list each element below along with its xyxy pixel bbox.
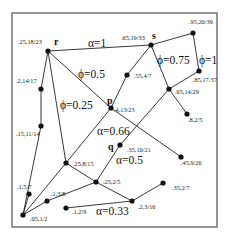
edge-weight-label: α=0.33 xyxy=(96,205,129,217)
node-value-label: .95,20/39 xyxy=(189,18,213,25)
node-n12 xyxy=(63,205,68,210)
edge-n15-n05 xyxy=(23,126,41,215)
node-n65 xyxy=(166,86,171,91)
node-name-s: s xyxy=(152,30,156,41)
edge-s-n95 xyxy=(151,33,193,45)
node-value-label: .55,4/7 xyxy=(134,72,152,79)
node-n85 xyxy=(196,68,201,73)
node-n2 xyxy=(38,86,43,91)
node-name-q: q xyxy=(108,141,114,152)
node-name-r: r xyxy=(54,36,59,47)
edge-r-n2 xyxy=(41,51,48,89)
edge-weight-label: α=0.5 xyxy=(116,154,143,166)
node-value-label: .45,9/26 xyxy=(181,159,202,166)
graph-diagram: .25,18/23.65,19/33.95,20/39.85,17/37.55,… xyxy=(0,0,228,237)
edge-n55-p xyxy=(111,75,127,108)
node-value-label: .1,5/7 xyxy=(17,183,31,190)
node-n35 xyxy=(160,180,165,185)
node-n55 xyxy=(124,72,129,77)
node-value-label: .85,17/37 xyxy=(193,76,217,83)
node-n15b xyxy=(26,191,31,196)
node-value-label: .25,18/23 xyxy=(18,38,42,45)
node-n05 xyxy=(20,212,25,217)
edge-weight-label: ϕ=0.75 xyxy=(157,54,190,67)
edge-weight-label: ϕ=1 xyxy=(199,54,218,67)
edge-s-n65 xyxy=(151,45,169,89)
node-name-p: p xyxy=(107,95,113,106)
node-value-label: .35,2/7 xyxy=(172,184,190,191)
node-value-label: .1,3/8 xyxy=(51,190,65,197)
node-value-label: .25,2/5 xyxy=(103,178,121,185)
node-r xyxy=(45,48,50,53)
node-value-labels: .25,18/23.65,19/33.95,20/39.85,17/37.55,… xyxy=(16,18,217,222)
node-value-label: .25,8/15 xyxy=(73,160,94,167)
node-value-label: .65,14/29 xyxy=(175,88,199,95)
edge-s-n55 xyxy=(127,45,151,75)
node-s xyxy=(148,42,153,47)
node-value-label: .8,2/5 xyxy=(188,116,202,123)
edge-weight-label: ϕ=0.5 xyxy=(78,68,105,81)
node-n13 xyxy=(44,198,49,203)
node-p xyxy=(108,105,113,110)
node-n252 xyxy=(93,179,98,184)
node-n15 xyxy=(38,123,43,128)
node-n258 xyxy=(63,160,68,165)
edge-weight-label: ϕ=0.25 xyxy=(60,99,93,112)
node-value-label: .1,2/9 xyxy=(72,208,86,215)
node-value-label: .35,10/21 xyxy=(127,146,151,153)
node-value-label: .4,13/23 xyxy=(114,106,135,113)
node-n23 xyxy=(129,198,134,203)
diagram-frame xyxy=(12,13,217,227)
edge-n23-n35 xyxy=(132,183,163,201)
edge-weight-label: α=0.66 xyxy=(97,125,130,137)
node-value-label: .2,14/17 xyxy=(16,77,37,84)
node-value-label: .05,1/2 xyxy=(30,215,48,222)
node-q xyxy=(117,142,122,147)
node-value-label: .2,3/16 xyxy=(138,203,156,210)
node-value-label: .15,11/14 xyxy=(16,130,40,137)
edge-weight-label: α=1 xyxy=(88,37,107,49)
node-n95 xyxy=(190,30,195,35)
node-value-label: .65,19/33 xyxy=(121,34,145,41)
